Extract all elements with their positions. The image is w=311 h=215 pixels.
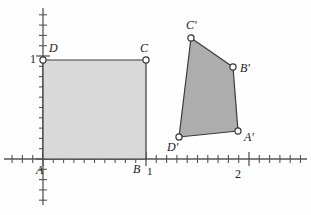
vertex-label-D-prime: D' (167, 141, 178, 153)
vertex-marker-A-prime (235, 128, 241, 134)
vertex-label-A: A (36, 164, 43, 176)
vertex-marker-D (40, 57, 46, 63)
vertex-label-D: D (49, 42, 58, 54)
vertex-label-B-prime: B' (240, 62, 250, 74)
x-tick-label-2: 2 (235, 168, 241, 180)
vertex-label-B: B (133, 163, 140, 175)
vertex-label-A-prime: A' (244, 131, 254, 143)
vertex-marker-C (143, 57, 149, 63)
unit-square-shape (43, 60, 146, 159)
figure-canvas (0, 0, 311, 215)
vertex-marker-B-prime (230, 64, 236, 70)
x-tick-label-1: 1 (147, 166, 153, 177)
vertex-label-C-prime: C' (186, 19, 197, 31)
image-quadrilateral-shape (179, 38, 238, 137)
y-tick-label-1: 1 (30, 53, 36, 65)
vertex-label-C: C (140, 42, 148, 54)
vertex-marker-C-prime (188, 35, 194, 41)
geometry-figure: 1 1 2 A B C D A' B' C' D' (0, 0, 311, 215)
